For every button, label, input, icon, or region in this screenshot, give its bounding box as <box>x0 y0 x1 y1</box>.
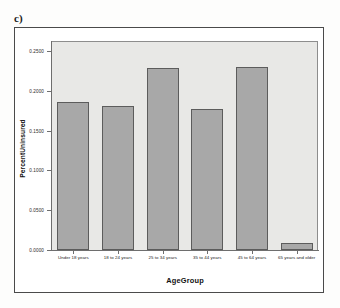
bar[interactable] <box>102 106 134 250</box>
figure-container: c) 0.00000.05000.10000.15000.20000.2500 … <box>0 0 340 308</box>
bar[interactable] <box>147 68 179 250</box>
bar-slot <box>185 41 230 250</box>
y-tick-label: 0.1500 <box>29 128 44 133</box>
x-tick-mark <box>207 251 208 254</box>
x-tick-mark <box>73 251 74 254</box>
y-tick-label: 0.0500 <box>29 208 44 213</box>
x-category-label: Under 18 years <box>51 255 96 260</box>
x-category-label: 45 to 64 years <box>230 255 275 260</box>
x-category-label: 65 years and older <box>274 255 319 260</box>
bar-slot <box>140 41 185 250</box>
bars-layer <box>51 41 319 250</box>
y-tick-label: 0.2500 <box>29 48 44 53</box>
x-category-label: 25 to 34 years <box>140 255 185 260</box>
figure-marker: c) <box>14 12 23 24</box>
bar[interactable] <box>57 102 89 250</box>
x-category-label: 35 to 44 years <box>185 255 230 260</box>
x-tick-mark <box>252 251 253 254</box>
y-tick-label: 0.2000 <box>29 88 44 93</box>
bar[interactable] <box>236 67 268 250</box>
x-tick-mark <box>163 251 164 254</box>
x-tick-mark <box>118 251 119 254</box>
x-axis-title: AgeGroup <box>51 276 319 285</box>
x-tick-mark <box>297 251 298 254</box>
bar[interactable] <box>191 109 223 250</box>
bar[interactable] <box>281 243 313 250</box>
bar-slot <box>51 41 96 250</box>
y-tick-label: 0.0000 <box>29 248 44 253</box>
y-tick-mark <box>47 250 51 251</box>
x-category-label: 18 to 24 years <box>96 255 141 260</box>
y-tick-label: 0.1000 <box>29 168 44 173</box>
bar-slot <box>230 41 275 250</box>
bar-slot <box>96 41 141 250</box>
y-axis-title: PercentUninsured <box>19 89 26 209</box>
x-axis-line <box>51 250 319 251</box>
bar-slot <box>274 41 319 250</box>
